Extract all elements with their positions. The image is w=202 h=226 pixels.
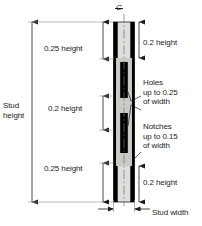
flange-middle-left <box>114 58 117 166</box>
label-stud-width: Stud width <box>152 208 188 218</box>
centerline-symbol: C <box>116 3 122 13</box>
flange-bottom-left <box>114 166 118 202</box>
label-stud-height: Stud height <box>3 101 39 120</box>
flange-middle-right <box>132 58 135 166</box>
flange-top-left <box>114 22 118 58</box>
label-bottom-segment: 0.25 height <box>44 164 83 174</box>
label-middle-segment: 0.2 height <box>48 104 82 114</box>
label-top-segment: 0.25 height <box>44 44 83 54</box>
label-holes-callout: Holes up to 0.25 of width <box>143 78 178 107</box>
label-notches-callout: Notches up to 0.15 of width <box>143 122 178 151</box>
label-top-right-segment: 0.2 height <box>143 38 177 48</box>
flange-top-right <box>130 22 134 58</box>
label-bottom-right-segment: 0.2 height <box>143 178 177 188</box>
flange-bottom-right <box>130 166 134 202</box>
